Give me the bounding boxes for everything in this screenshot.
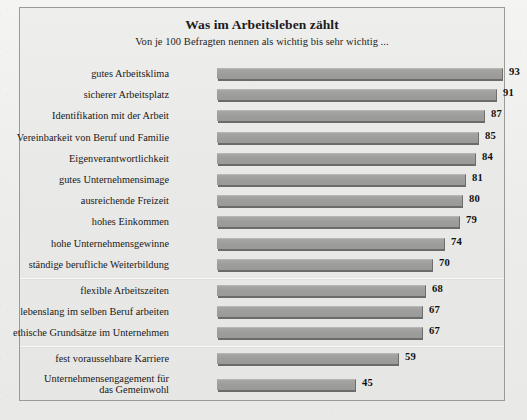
bar (217, 110, 485, 121)
bar-value-label: 85 (485, 130, 496, 141)
bar-label: ethische Grundsätze im Unternehmen (0, 327, 169, 339)
bar (217, 327, 423, 338)
bar-label: ständige berufliche Weiterbildung (0, 259, 169, 271)
bar-row: Identifikation mit der Arbeit87 (20, 106, 504, 127)
bar-wrapper (217, 132, 479, 145)
bar-row: lebenslang im selben Beruf arbeiten67 (20, 302, 504, 323)
bar-label: gutes Unternehmensimage (0, 174, 169, 186)
bar-row: hohe Unternehmensgewinne74 (20, 234, 504, 255)
bar-label: gutes Arbeitsklima (0, 68, 169, 80)
bar-label: flexible Arbeitszeiten (0, 285, 169, 297)
group-separator (20, 278, 504, 279)
bar-value-label: 70 (439, 257, 450, 268)
bar (217, 259, 433, 270)
bar-value-label: 59 (405, 351, 416, 362)
bar (217, 285, 426, 296)
bar-wrapper (217, 174, 466, 187)
bar-wrapper (217, 327, 423, 340)
bar (217, 153, 476, 164)
group-separator (20, 346, 504, 347)
bar-row: ethische Grundsätze im Unternehmen67 (20, 323, 504, 344)
bar-value-label: 79 (466, 214, 477, 225)
bar-value-label: 68 (432, 283, 443, 294)
bar-label: fest voraussehbare Karriere (0, 353, 169, 365)
bar-value-label: 93 (509, 66, 520, 77)
bar-row: sicherer Arbeitsplatz91 (20, 85, 504, 106)
bar-wrapper (217, 68, 503, 81)
bar-value-label: 81 (472, 172, 483, 183)
bar-row: Eigenverantwortlichkeit84 (20, 149, 504, 170)
bar-wrapper (217, 110, 485, 123)
bar-wrapper (217, 285, 426, 298)
bar-value-label: 45 (362, 377, 373, 388)
bar-chart-plot: gutes Arbeitsklima93sicherer Arbeitsplat… (20, 64, 504, 399)
bar-label: hohe Unternehmensgewinne (0, 238, 169, 250)
bar (217, 306, 423, 317)
bar (217, 216, 460, 227)
bar-wrapper (217, 353, 399, 366)
bar-row: Unternehmensengagement fürdas Gemeinwohl… (20, 371, 504, 399)
bar (217, 174, 466, 185)
bar (217, 68, 503, 79)
bar-row: hohes Einkommen79 (20, 212, 504, 233)
bar-label: Identifikation mit der Arbeit (0, 110, 169, 122)
bar-label: hohes Einkommen (0, 216, 169, 228)
bar-value-label: 67 (429, 304, 440, 315)
bar (217, 238, 445, 249)
bar-row: gutes Arbeitsklima93 (20, 64, 504, 85)
chart-page: Was im Arbeitsleben zählt Von je 100 Bef… (0, 0, 527, 420)
chart-title: Was im Arbeitsleben zählt (20, 17, 504, 33)
chart-frame: Was im Arbeitsleben zählt Von je 100 Bef… (19, 7, 505, 401)
bar-wrapper (217, 259, 433, 272)
bar-wrapper (217, 89, 497, 102)
bar-value-label: 87 (491, 108, 502, 119)
bar-value-label: 91 (503, 87, 514, 98)
bar-wrapper (217, 216, 460, 229)
bar (217, 379, 356, 390)
bar-label: ausreichende Freizeit (0, 195, 169, 207)
bar (217, 89, 497, 100)
bar-row: gutes Unternehmensimage81 (20, 170, 504, 191)
bar-value-label: 84 (482, 151, 493, 162)
bar-wrapper (217, 153, 476, 166)
bar-row: Vereinbarkeit von Beruf und Familie85 (20, 128, 504, 149)
bar-label: Unternehmensengagement fürdas Gemeinwohl (0, 373, 169, 396)
bar-value-label: 67 (429, 325, 440, 336)
bar (217, 353, 399, 364)
bar-value-label: 80 (469, 193, 480, 204)
bar (217, 195, 463, 206)
chart-header: Was im Arbeitsleben zählt Von je 100 Bef… (20, 17, 504, 49)
bar-row: ständige berufliche Weiterbildung70 (20, 255, 504, 276)
bar-wrapper (217, 379, 356, 392)
bar-value-label: 74 (451, 236, 462, 247)
bar-wrapper (217, 238, 445, 251)
bar-label: sicherer Arbeitsplatz (0, 89, 169, 101)
bar-label: lebenslang im selben Beruf arbeiten (0, 306, 169, 318)
chart-subtitle: Von je 100 Befragten nennen als wichtig … (20, 35, 504, 49)
bar (217, 132, 479, 143)
bar-row: flexible Arbeitszeiten68 (20, 281, 504, 302)
bar-row: ausreichende Freizeit80 (20, 191, 504, 212)
bar-label: Vereinbarkeit von Beruf und Familie (0, 132, 169, 144)
bar-label: Eigenverantwortlichkeit (0, 153, 169, 165)
bar-wrapper (217, 195, 463, 208)
bar-row: fest voraussehbare Karriere59 (20, 349, 504, 370)
bar-wrapper (217, 306, 423, 319)
